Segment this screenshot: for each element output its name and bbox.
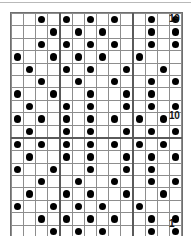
chart-cell-empty[interactable]	[48, 38, 61, 50]
chart-cell-filled[interactable]	[146, 38, 158, 50]
chart-cell-empty[interactable]	[24, 75, 36, 87]
chart-cell-empty[interactable]	[146, 63, 158, 75]
chart-cell-empty[interactable]	[97, 38, 109, 50]
chart-cell-empty[interactable]	[73, 213, 85, 225]
chart-cell-filled[interactable]	[121, 163, 134, 175]
chart-cell-empty[interactable]	[85, 75, 97, 87]
chart-cell-empty[interactable]	[48, 100, 61, 112]
chart-cell-empty[interactable]	[133, 176, 146, 188]
chart-cell-filled[interactable]	[85, 38, 97, 50]
chart-cell-filled[interactable]	[158, 188, 170, 200]
chart-cell-empty[interactable]	[48, 176, 61, 188]
chart-cell-filled[interactable]	[48, 200, 61, 212]
chart-cell-filled[interactable]	[146, 225, 158, 236]
chart-cell-filled[interactable]	[24, 100, 36, 112]
chart-cell-filled[interactable]	[60, 38, 73, 50]
chart-cell-empty[interactable]	[85, 51, 97, 63]
chart-cell-filled[interactable]	[60, 125, 73, 138]
chart-cell-empty[interactable]	[97, 100, 109, 112]
chart-cell-empty[interactable]	[97, 213, 109, 225]
chart-cell-empty[interactable]	[158, 151, 170, 163]
chart-cell-empty[interactable]	[12, 151, 24, 163]
chart-cell-empty[interactable]	[12, 225, 24, 236]
chart-cell-filled[interactable]	[48, 163, 61, 175]
chart-cell-filled[interactable]	[73, 51, 85, 63]
chart-cell-filled[interactable]	[146, 125, 158, 138]
chart-cell-filled[interactable]	[73, 200, 85, 212]
chart-cell-filled[interactable]	[85, 14, 97, 26]
chart-cell-empty[interactable]	[12, 188, 24, 200]
chart-cell-filled[interactable]	[85, 138, 97, 151]
chart-cell-filled[interactable]	[158, 63, 170, 75]
chart-cell-filled[interactable]	[109, 213, 121, 225]
chart-cell-empty[interactable]	[121, 38, 134, 50]
chart-cell-empty[interactable]	[133, 213, 146, 225]
chart-cell-empty[interactable]	[73, 151, 85, 163]
chart-cell-filled[interactable]	[170, 38, 182, 50]
chart-cell-empty[interactable]	[24, 14, 36, 26]
chart-cell-empty[interactable]	[121, 225, 134, 236]
chart-cell-filled[interactable]	[36, 38, 48, 50]
chart-cell-empty[interactable]	[73, 100, 85, 112]
chart-cell-empty[interactable]	[24, 213, 36, 225]
chart-cell-empty[interactable]	[158, 100, 170, 112]
chart-cell-empty[interactable]	[12, 75, 24, 87]
chart-cell-filled[interactable]	[36, 213, 48, 225]
chart-cell-filled[interactable]	[109, 14, 121, 26]
chart-cell-empty[interactable]	[73, 113, 85, 125]
chart-cell-filled[interactable]	[12, 200, 24, 212]
chart-cell-empty[interactable]	[12, 176, 24, 188]
chart-cell-filled[interactable]	[146, 100, 158, 112]
chart-cell-empty[interactable]	[121, 26, 134, 38]
chart-cell-empty[interactable]	[73, 188, 85, 200]
chart-cell-empty[interactable]	[36, 125, 48, 138]
chart-cell-filled[interactable]	[121, 151, 134, 163]
chart-cell-filled[interactable]	[146, 26, 158, 38]
chart-cell-empty[interactable]	[133, 100, 146, 112]
chart-cell-filled[interactable]	[85, 63, 97, 75]
chart-cell-filled[interactable]	[146, 163, 158, 175]
chart-cell-filled[interactable]	[170, 26, 182, 38]
chart-cell-filled[interactable]	[133, 138, 146, 151]
chart-cell-empty[interactable]	[60, 51, 73, 63]
chart-cell-filled[interactable]	[170, 75, 182, 87]
chart-cell-filled[interactable]	[36, 75, 48, 87]
chart-cell-empty[interactable]	[85, 176, 97, 188]
chart-cell-filled[interactable]	[60, 113, 73, 125]
chart-cell-empty[interactable]	[48, 14, 61, 26]
chart-cell-empty[interactable]	[170, 51, 182, 63]
chart-cell-filled[interactable]	[146, 151, 158, 163]
chart-cell-empty[interactable]	[158, 163, 170, 175]
chart-cell-empty[interactable]	[73, 38, 85, 50]
chart-cell-empty[interactable]	[109, 51, 121, 63]
chart-cell-empty[interactable]	[12, 125, 24, 138]
chart-cell-filled[interactable]	[60, 138, 73, 151]
chart-cell-empty[interactable]	[24, 88, 36, 100]
chart-cell-filled[interactable]	[121, 88, 134, 100]
chart-cell-empty[interactable]	[48, 138, 61, 151]
chart-cell-empty[interactable]	[133, 188, 146, 200]
chart-cell-filled[interactable]	[85, 125, 97, 138]
chart-cell-empty[interactable]	[146, 51, 158, 63]
chart-cell-filled[interactable]	[85, 213, 97, 225]
chart-cell-filled[interactable]	[48, 225, 61, 236]
chart-cell-filled[interactable]	[133, 113, 146, 125]
chart-cell-filled[interactable]	[12, 88, 24, 100]
chart-cell-empty[interactable]	[24, 38, 36, 50]
chart-cell-empty[interactable]	[48, 63, 61, 75]
chart-cell-filled[interactable]	[36, 176, 48, 188]
chart-cell-empty[interactable]	[97, 188, 109, 200]
chart-cell-empty[interactable]	[73, 14, 85, 26]
chart-cell-filled[interactable]	[85, 88, 97, 100]
chart-cell-filled[interactable]	[48, 51, 61, 63]
chart-cell-filled[interactable]	[158, 138, 170, 151]
chart-cell-filled[interactable]	[24, 188, 36, 200]
chart-cell-empty[interactable]	[97, 113, 109, 125]
chart-cell-empty[interactable]	[133, 225, 146, 236]
chart-cell-empty[interactable]	[170, 188, 182, 200]
chart-cell-filled[interactable]	[73, 75, 85, 87]
chart-cell-empty[interactable]	[12, 63, 24, 75]
chart-cell-filled[interactable]	[97, 26, 109, 38]
chart-cell-empty[interactable]	[60, 75, 73, 87]
chart-cell-filled[interactable]	[85, 151, 97, 163]
